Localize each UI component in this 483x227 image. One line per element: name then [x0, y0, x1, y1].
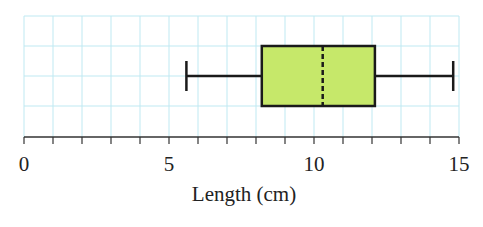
tick-label-15: 15 [449, 152, 470, 176]
tick-label-0: 0 [19, 152, 30, 176]
tick-label-10: 10 [304, 152, 325, 176]
x-axis [24, 137, 459, 144]
box-plot-chart: 0 5 10 15 Length (cm) [0, 0, 483, 227]
x-axis-title: Length (cm) [192, 182, 296, 206]
box-plot [186, 46, 453, 106]
tick-label-5: 5 [164, 152, 175, 176]
